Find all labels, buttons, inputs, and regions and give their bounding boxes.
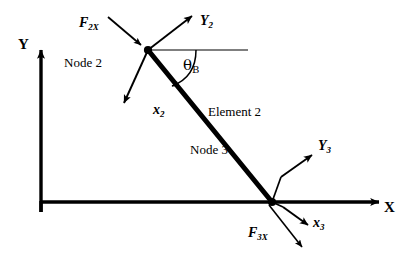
beam-element-diagram (0, 0, 415, 256)
node-2-x-axis-label-base: x (153, 102, 160, 117)
global-axes (41, 50, 379, 212)
node-2-angle-label-sub: B (192, 64, 199, 75)
node-3-y-axis-label: Y3 (318, 139, 331, 153)
node-3-label: Node 3 (190, 143, 228, 156)
node-3-x-axis-label: x3 (313, 216, 325, 230)
node-2-force-label-sub: 2X (88, 22, 99, 32)
node-2-y-axis-label-sub: 2 (209, 20, 214, 30)
node-2-x-axis-label-sub: 2 (160, 109, 165, 119)
node-2-angle-label: θB (183, 58, 199, 73)
node-3-x-axis-label-base: x (313, 215, 320, 230)
element-2-beam (148, 50, 272, 202)
node-3-force-label-base: F (248, 225, 257, 240)
node-2-force-label-base: F (79, 15, 88, 30)
node-2-y-axis-label-base: Y (200, 13, 209, 28)
node-3-x-axis-tip (283, 207, 308, 225)
node-3-force-arrow (269, 205, 302, 247)
node-2-label: Node 2 (64, 56, 102, 69)
node-3-y-axis-label-sub: 3 (327, 145, 332, 155)
node-2-y-axis-label: Y2 (200, 14, 213, 28)
node-3-y-axis (272, 177, 281, 202)
node-2-angle-label-base: θ (183, 56, 192, 74)
node-3-y-axis-tip (281, 155, 312, 177)
element-2-label: Element 2 (208, 105, 261, 118)
node-3-x-axis-label-sub: 3 (320, 222, 325, 232)
node-2-y-axis (148, 16, 192, 50)
node-2-x-axis-label: x2 (153, 103, 165, 117)
node-2-x-axis (124, 50, 148, 103)
figure-canvas: Y X Node 2 Node 3 Element 2 F2X Y2 x2 θB… (0, 0, 415, 256)
node-3-force-label: F3X (248, 226, 268, 240)
node-3-y-axis-label-base: Y (318, 138, 327, 153)
global-y-axis-label: Y (18, 37, 29, 52)
node-2-force-arrow (108, 17, 141, 45)
global-x-axis-label: X (384, 200, 395, 215)
node-2-force-label: F2X (79, 16, 99, 30)
node-3-force-label-sub: 3X (257, 232, 268, 242)
